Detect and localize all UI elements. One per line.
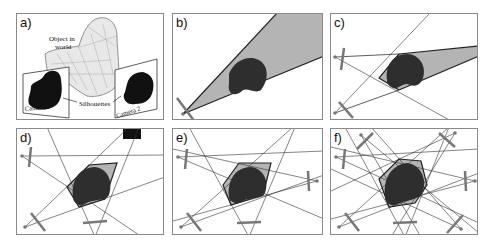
camera-center: [453, 131, 457, 135]
camera-center: [315, 179, 319, 183]
panel-e-illustration: [173, 129, 323, 235]
panel-d: d): [16, 128, 164, 235]
camera-center: [334, 155, 338, 159]
panel-b-illustration: [173, 14, 323, 120]
camera-center: [181, 112, 185, 116]
camera-1-plane: Camera 1: [23, 67, 69, 118]
object-label: Object in: [49, 35, 75, 43]
camera-bar: [237, 222, 261, 223]
camera-bar: [341, 48, 344, 70]
camera-center: [333, 111, 337, 115]
object-silhouette: [387, 54, 424, 88]
panel-c-illustration: [331, 14, 478, 120]
silhouettes-label: Silhouettes: [79, 100, 110, 108]
camera-center: [359, 133, 363, 137]
panel-e: e): [172, 128, 323, 235]
camera-bar: [393, 222, 417, 223]
camera-center: [179, 225, 183, 229]
ray: [178, 151, 323, 157]
camera-center: [333, 55, 337, 59]
camera-bar: [29, 147, 31, 167]
camera-center: [337, 225, 341, 229]
panel-f-illustration: [331, 129, 478, 235]
camera-bar: [308, 171, 309, 191]
panel-b: b): [172, 13, 323, 120]
camera-bar: [339, 102, 353, 118]
camera-center: [459, 227, 463, 231]
camera-center: [473, 179, 477, 183]
panel-f: f): [330, 128, 478, 235]
panel-c: c): [330, 13, 478, 120]
camera-bar: [31, 213, 45, 231]
object-label-2: world: [55, 43, 72, 51]
camera-2-plane: Camera 2: [115, 59, 157, 119]
camera-bar: [345, 213, 359, 231]
camera-center: [176, 155, 180, 159]
panel-a: a) Object in world Camera 1 Camera 2 Sil…: [16, 13, 164, 120]
camera-bar: [83, 221, 107, 223]
camera-center: [20, 154, 24, 158]
panel-d-illustration: [17, 129, 164, 235]
camera-bar: [343, 149, 345, 169]
panel-a-illustration: Object in world Camera 1 Camera 2 Silhou…: [17, 14, 164, 120]
ray: [22, 155, 164, 156]
camera-bar: [465, 171, 466, 191]
camera-bar: [439, 133, 455, 147]
camera-center: [23, 225, 27, 229]
